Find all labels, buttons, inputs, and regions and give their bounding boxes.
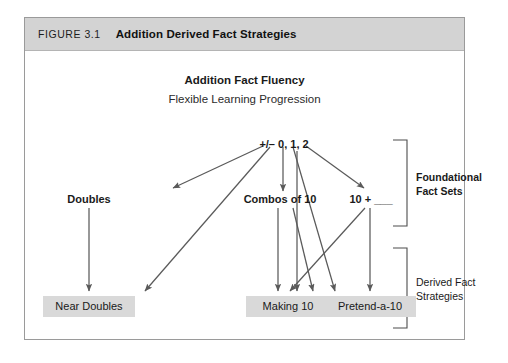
node-doubles: Doubles — [67, 193, 110, 207]
bracket-foundational — [393, 140, 407, 226]
figure-title: Addition Derived Fact Strategies — [116, 28, 297, 40]
node-ten-plus-blank: 10 + ___ — [349, 193, 392, 207]
bracket-label-foundational: Foundational Fact Sets — [416, 170, 502, 198]
node-combos-of-10: Combos of 10 — [244, 193, 317, 207]
box-pretend-a-10: Pretend-a-10 — [324, 296, 416, 317]
arrows-from-root — [145, 146, 364, 291]
node-root: +/– 0, 1, 2 — [259, 138, 308, 152]
box-making-10: Making 10 — [246, 296, 330, 317]
figure-container: FIGURE 3.1 Addition Derived Fact Strateg… — [24, 17, 465, 340]
figure-header: FIGURE 3.1 Addition Derived Fact Strateg… — [25, 18, 464, 51]
arrows-to-bottom-boxes — [89, 151, 370, 291]
box-near-doubles: Near Doubles — [43, 296, 135, 317]
figure-number: FIGURE 3.1 — [38, 28, 101, 40]
diagram-canvas: Addition Fact Fluency Flexible Learning … — [25, 51, 464, 339]
bracket-label-derived: Derived Fact Strategies — [416, 275, 502, 303]
